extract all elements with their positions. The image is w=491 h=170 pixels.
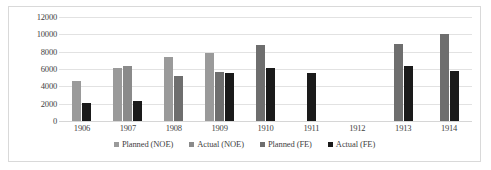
x-axis: 190619071908190919101911191219131914 — [59, 123, 472, 133]
bar[interactable] — [133, 101, 142, 121]
bar[interactable] — [164, 57, 173, 121]
bar[interactable] — [256, 45, 265, 121]
legend-item[interactable]: Actual (NOE) — [189, 139, 244, 149]
bar[interactable] — [82, 103, 91, 121]
bars-layer — [59, 17, 472, 121]
x-axis-tick-label: 1911 — [288, 123, 334, 133]
y-axis-tick-label: 8000 — [41, 47, 57, 57]
legend-swatch-icon — [260, 142, 265, 147]
x-axis-tick-label: 1908 — [151, 123, 197, 133]
bar-group — [334, 17, 380, 121]
axis-baseline — [59, 121, 472, 122]
bar[interactable] — [205, 53, 214, 121]
bar-group — [243, 17, 289, 121]
bar[interactable] — [225, 73, 234, 121]
bar-group — [105, 17, 151, 121]
x-axis-tick-label: 1910 — [243, 123, 289, 133]
bar[interactable] — [394, 44, 403, 121]
y-axis-tick-label: 10000 — [37, 29, 57, 39]
x-axis-tick-label: 1913 — [380, 123, 426, 133]
y-axis-tick-label: 12000 — [37, 12, 57, 22]
bar-group — [380, 17, 426, 121]
y-axis-tick-label: 0 — [53, 116, 57, 126]
bar[interactable] — [215, 72, 224, 121]
legend-item-label: Planned (NOE) — [122, 139, 173, 149]
bar-group — [151, 17, 197, 121]
y-axis-tick-label: 4000 — [41, 81, 57, 91]
x-axis-tick-label: 1906 — [59, 123, 105, 133]
bar[interactable] — [404, 66, 413, 121]
legend-item[interactable]: Planned (NOE) — [114, 139, 173, 149]
x-axis-tick-label: 1912 — [334, 123, 380, 133]
bar[interactable] — [123, 66, 132, 121]
bar-group — [288, 17, 334, 121]
plot-area — [59, 17, 472, 121]
legend-item-label: Planned (FE) — [268, 139, 312, 149]
legend-item-label: Actual (NOE) — [197, 139, 244, 149]
bar[interactable] — [113, 68, 122, 121]
y-axis-tick-label: 6000 — [41, 64, 57, 74]
legend-item[interactable]: Actual (FE) — [328, 139, 375, 149]
bar[interactable] — [266, 68, 275, 121]
legend-item-label: Actual (FE) — [336, 139, 375, 149]
x-axis-tick-label: 1907 — [105, 123, 151, 133]
plot-wrapper: 120001000080006000400020000 190619071908… — [9, 7, 480, 161]
x-axis-tick-label: 1909 — [197, 123, 243, 133]
bar[interactable] — [307, 73, 316, 121]
bar[interactable] — [440, 34, 449, 121]
bar[interactable] — [450, 71, 459, 121]
y-axis: 120001000080006000400020000 — [15, 17, 57, 121]
chart-legend: Planned (NOE)Actual (NOE)Planned (FE)Act… — [9, 139, 480, 149]
bar-group — [426, 17, 472, 121]
legend-item[interactable]: Planned (FE) — [260, 139, 312, 149]
legend-swatch-icon — [189, 142, 194, 147]
x-axis-tick-label: 1914 — [426, 123, 472, 133]
chart-container: 120001000080006000400020000 190619071908… — [8, 6, 481, 162]
bar-group — [59, 17, 105, 121]
bar-group — [197, 17, 243, 121]
legend-swatch-icon — [114, 142, 119, 147]
bar[interactable] — [174, 76, 183, 121]
legend-swatch-icon — [328, 142, 333, 147]
bar[interactable] — [72, 81, 81, 121]
y-axis-tick-label: 2000 — [41, 99, 57, 109]
